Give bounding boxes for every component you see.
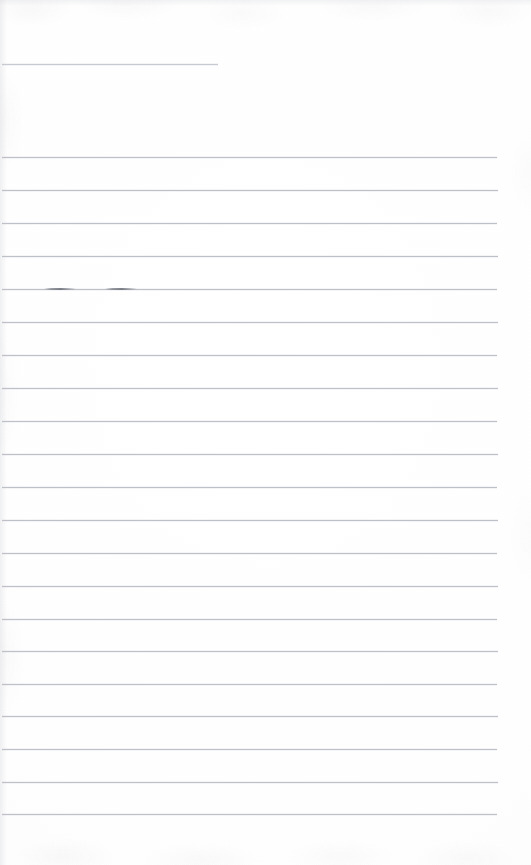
ruled-line <box>2 157 497 158</box>
ruled-line <box>2 355 497 356</box>
scanned-page <box>0 0 531 865</box>
ink-mark <box>44 288 76 290</box>
ink-mark <box>105 288 137 290</box>
ruled-line <box>2 520 498 521</box>
ruled-line <box>2 782 498 783</box>
ruled-line <box>2 586 498 587</box>
ruled-line <box>2 454 498 455</box>
ruled-line <box>2 289 497 290</box>
ruled-line <box>2 256 498 257</box>
ruled-line <box>2 619 497 620</box>
ruled-line <box>2 684 497 685</box>
paper-background <box>0 0 531 865</box>
ruled-line <box>2 421 497 422</box>
ruled-line <box>2 388 498 389</box>
ruled-line <box>2 716 498 717</box>
ruled-line <box>2 487 497 488</box>
ruled-line <box>2 322 498 323</box>
ruled-line <box>2 223 497 224</box>
ruled-line <box>2 190 498 191</box>
ruled-line <box>2 814 497 815</box>
ruled-line <box>2 553 497 554</box>
ruled-line <box>2 64 218 65</box>
ruled-line <box>2 651 498 652</box>
ruled-line <box>2 749 497 750</box>
